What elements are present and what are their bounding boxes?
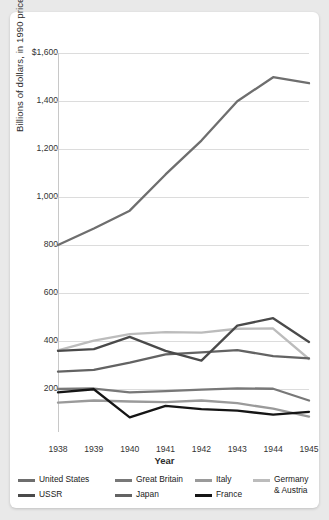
- legend-swatch: [115, 494, 132, 497]
- x-axis-tick: 1940: [110, 444, 150, 454]
- series-line-united-states: [58, 77, 309, 245]
- legend-swatch: [18, 479, 35, 482]
- legend-item[interactable]: France: [195, 489, 242, 500]
- legend-item[interactable]: USSR: [18, 489, 62, 500]
- page-background: Billions of dollars, in 1990 prices $1,6…: [0, 0, 329, 520]
- x-axis-label: Year: [10, 455, 319, 466]
- legend-item[interactable]: Germany & Austria: [253, 474, 315, 496]
- legend-swatch: [195, 479, 212, 482]
- legend-label: Japan: [136, 489, 159, 500]
- legend-label: Great Britain: [136, 474, 183, 485]
- x-axis-tick: 1939: [74, 444, 114, 454]
- chart-svg: [10, 12, 319, 432]
- x-axis-tick: 1941: [146, 444, 186, 454]
- legend-label: Germany & Austria: [274, 474, 315, 496]
- legend-swatch: [195, 494, 212, 497]
- legend-item[interactable]: United States: [18, 474, 89, 485]
- legend-item[interactable]: Japan: [115, 489, 159, 500]
- legend-label: Italy: [216, 474, 231, 485]
- x-axis-tick: 1938: [38, 444, 78, 454]
- legend-item[interactable]: Great Britain: [115, 474, 183, 485]
- series-line-japan: [58, 350, 309, 372]
- legend-label: France: [216, 489, 242, 500]
- legend-swatch: [115, 479, 132, 482]
- chart-card: Billions of dollars, in 1990 prices $1,6…: [10, 12, 319, 508]
- legend-swatch: [253, 479, 270, 482]
- legend-swatch: [18, 494, 35, 497]
- series-line-france: [58, 389, 309, 417]
- x-axis-tick: 1944: [253, 444, 293, 454]
- x-axis-tick: 1943: [217, 444, 257, 454]
- chart-plot-area: Billions of dollars, in 1990 prices $1,6…: [10, 12, 319, 432]
- x-axis-tick: 1942: [181, 444, 221, 454]
- chart-legend: United StatesGreat BritainItalyGermany &…: [10, 470, 319, 508]
- legend-item[interactable]: Italy: [195, 474, 231, 485]
- legend-label: United States: [39, 474, 89, 485]
- legend-label: USSR: [39, 489, 62, 500]
- x-axis-tick: 1945: [289, 444, 329, 454]
